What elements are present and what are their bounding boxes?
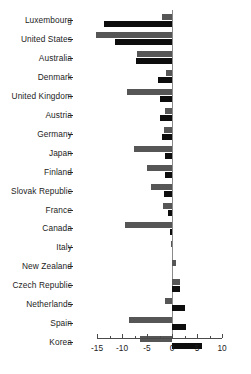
bar-series-gray-new-zealand xyxy=(172,260,176,266)
category-tick xyxy=(68,39,73,40)
bar-series-black-finland xyxy=(165,172,172,178)
bar-series-gray-united-kingdom xyxy=(127,89,172,95)
category-label-united-states: United States xyxy=(21,34,72,44)
bar-series-black-slovak-republic xyxy=(164,191,172,197)
x-axis-minor-tick xyxy=(210,336,211,338)
category-tick xyxy=(68,342,73,343)
bar-series-black-france xyxy=(168,210,172,216)
category-label-germany: Germany xyxy=(37,129,72,139)
bar-series-black-austria xyxy=(160,115,172,121)
bar-series-gray-spain xyxy=(129,317,172,323)
plot-area: LuxembourgUnited StatesAustraliaDenmarkU… xyxy=(0,0,251,374)
bar-series-gray-japan xyxy=(134,146,172,152)
x-axis-minor-tick xyxy=(160,336,161,338)
bar-chart: LuxembourgUnited StatesAustraliaDenmarkU… xyxy=(0,0,251,374)
category-tick xyxy=(68,96,73,97)
category-tick xyxy=(68,266,73,267)
bar-series-gray-slovak-republic xyxy=(151,184,172,190)
bar-series-black-australia xyxy=(136,58,172,64)
category-tick xyxy=(68,58,73,59)
category-label-luxembourg: Luxembourg xyxy=(25,15,72,25)
bar-series-gray-united-states xyxy=(96,32,172,38)
category-tick xyxy=(68,191,73,192)
bar-series-black-united-states xyxy=(115,39,172,45)
category-label-new-zealand: New Zealand xyxy=(22,261,72,271)
category-tick xyxy=(68,323,73,324)
category-tick xyxy=(68,134,73,135)
bar-series-gray-luxembourg xyxy=(162,14,172,20)
category-tick xyxy=(68,172,73,173)
bar-series-gray-netherlands xyxy=(165,298,172,304)
x-axis-minor-tick xyxy=(185,336,186,338)
x-axis-major-tick xyxy=(222,334,223,338)
x-axis-tick-label-10: 10 xyxy=(202,343,242,353)
bar-series-gray-czech-republic xyxy=(172,279,180,285)
bar-series-black-denmark xyxy=(158,77,172,83)
category-tick xyxy=(68,304,73,305)
bar-series-gray-canada xyxy=(125,222,172,228)
bar-series-gray-italy xyxy=(171,241,172,247)
bar-series-gray-finland xyxy=(147,165,172,171)
category-tick xyxy=(68,210,73,211)
category-label-czech-republic: Czech Republic xyxy=(12,280,72,290)
x-axis-minor-tick xyxy=(110,336,111,338)
bar-series-black-czech-republic xyxy=(172,286,180,292)
bar-series-gray-austria xyxy=(165,108,172,114)
x-axis-major-tick xyxy=(197,334,198,338)
category-tick xyxy=(68,77,73,78)
bar-series-black-canada xyxy=(170,229,172,235)
bar-series-black-japan xyxy=(165,153,172,159)
bar-series-black-united-kingdom xyxy=(160,96,172,102)
category-tick xyxy=(68,285,73,286)
category-tick xyxy=(68,20,73,21)
x-axis-minor-tick xyxy=(135,336,136,338)
x-axis-line xyxy=(97,338,222,339)
x-axis-major-tick xyxy=(122,334,123,338)
bar-series-black-germany xyxy=(162,134,172,140)
bar-series-gray-france xyxy=(163,203,172,209)
category-tick xyxy=(68,228,73,229)
category-label-slovak-republic: Slovak Republic xyxy=(11,186,72,196)
x-axis-major-tick xyxy=(97,334,98,338)
x-axis-major-tick xyxy=(147,334,148,338)
category-label-united-kingdom: United Kingdom xyxy=(12,91,72,101)
bar-series-black-netherlands xyxy=(172,305,185,311)
bar-series-gray-denmark xyxy=(166,70,172,76)
category-tick xyxy=(68,247,73,248)
bar-series-gray-australia xyxy=(137,51,172,57)
bar-series-black-luxembourg xyxy=(104,21,172,27)
category-label-netherlands: Netherlands xyxy=(26,299,72,309)
bar-series-gray-germany xyxy=(164,127,172,133)
category-tick xyxy=(68,153,73,154)
category-tick xyxy=(68,115,73,116)
category-label-denmark: Denmark xyxy=(38,72,72,82)
bar-series-black-spain xyxy=(172,324,186,330)
x-axis-major-tick xyxy=(172,334,173,338)
